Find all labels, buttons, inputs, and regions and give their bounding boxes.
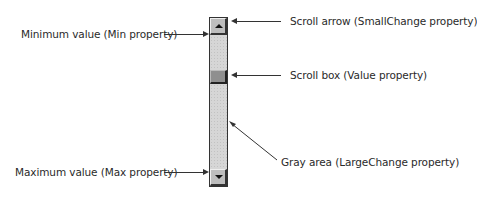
gray-area-label: Gray area (LargeChange property) (281, 156, 459, 168)
